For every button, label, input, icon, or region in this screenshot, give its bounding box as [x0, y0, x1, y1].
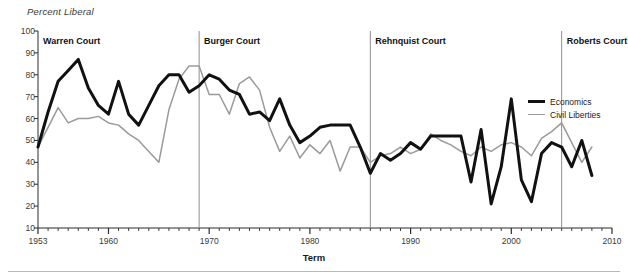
- series-line-economics: [38, 59, 592, 203]
- court-era-label: Burger Court: [204, 36, 260, 46]
- footer-divider: [8, 271, 620, 272]
- x-tick-label: 2010: [603, 236, 622, 246]
- x-axis-title: Term: [0, 252, 628, 263]
- chart-legend: Economics Civil Liberties: [528, 95, 601, 121]
- court-era-label: Rehnquist Court: [375, 36, 446, 46]
- court-era-label: Roberts Court: [567, 36, 628, 46]
- court-era-label: Warren Court: [43, 36, 100, 46]
- legend-label-civil-liberties: Civil Liberties: [550, 110, 601, 120]
- x-tick-label: 1990: [401, 236, 420, 246]
- legend-item-economics: Economics: [528, 95, 601, 108]
- x-tick-label: 1970: [200, 236, 219, 246]
- legend-line-economics-icon: [528, 100, 545, 103]
- legend-item-civil-liberties: Civil Liberties: [528, 108, 601, 121]
- x-tick-label: 1980: [300, 236, 319, 246]
- x-tick-label: 1960: [99, 236, 118, 246]
- legend-label-economics: Economics: [550, 97, 592, 107]
- x-tick-label: 2000: [502, 236, 521, 246]
- chart-container: Percent Liberal 102030405060708090100 19…: [0, 0, 628, 277]
- x-tick-label: 1953: [29, 236, 48, 246]
- legend-line-civil-liberties-icon: [528, 114, 545, 115]
